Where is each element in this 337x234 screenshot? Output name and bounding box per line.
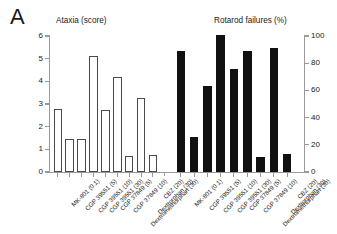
right-axis-tick: [305, 35, 309, 36]
bar-ataxia-2: [77, 139, 86, 172]
x-axis-tick: [180, 173, 181, 177]
left-axis-tick: [45, 81, 49, 82]
right-axis-tick: [305, 63, 309, 64]
bar-rotarod-8: [283, 154, 292, 172]
left-axis-tick: [45, 126, 49, 127]
x-axis-tick: [233, 173, 234, 177]
figure-panel-a: A Ataxia (score) Rotarod failures (%) 01…: [0, 0, 337, 234]
bar-ataxia-6: [125, 156, 134, 172]
left-axis-tick-label: 5: [30, 55, 43, 63]
x-axis-tick: [287, 173, 288, 177]
x-axis-tick: [220, 173, 221, 177]
x-axis-tick: [129, 173, 130, 177]
right-axis-tick-label: 40: [311, 114, 320, 122]
x-axis-tick: [164, 173, 165, 176]
x-axis-tick: [93, 173, 94, 177]
x-axis-tick: [81, 173, 82, 177]
left-axis-tick: [45, 35, 49, 36]
x-axis-tick: [152, 173, 153, 177]
bar-ataxia-0: [54, 109, 63, 172]
left-axis-tick: [45, 171, 49, 172]
right-axis-tick: [305, 144, 309, 145]
panel-letter: A: [10, 6, 25, 28]
bar-ataxia-3: [89, 56, 98, 172]
right-plot-title: Rotarod failures (%): [214, 16, 287, 25]
bar-ataxia-8: [149, 155, 158, 172]
bar-rotarod-0: [177, 51, 186, 172]
left-axis-tick: [45, 103, 49, 104]
left-plot-title: Ataxia (score): [56, 16, 107, 25]
x-axis-tick: [105, 173, 106, 177]
right-axis-tick-label: 0: [311, 168, 315, 176]
right-axis-tick-label: 60: [311, 86, 320, 94]
x-axis-tick: [260, 173, 261, 177]
bar-rotarod-1: [190, 137, 199, 172]
x-axis-tick: [273, 173, 274, 177]
x-axis-tick: [141, 173, 142, 177]
left-axis-tick-label: 6: [30, 32, 43, 40]
left-y-axis: [49, 35, 50, 173]
left-axis-tick: [45, 149, 49, 150]
left-axis-tick-label: 1: [30, 145, 43, 153]
x-axis-tick: [117, 173, 118, 177]
bar-ataxia-5: [113, 77, 122, 172]
bar-rotarod-7: [270, 48, 279, 172]
bar-ataxia-1: [65, 139, 74, 172]
x-axis-tick: [69, 173, 70, 177]
right-axis-tick-label: 100: [311, 32, 324, 40]
right-y-axis: [304, 35, 305, 173]
bar-ataxia-4: [101, 110, 110, 172]
bar-rotarod-3: [216, 35, 225, 172]
bar-rotarod-2: [203, 86, 212, 172]
bar-rotarod-6: [256, 157, 265, 172]
x-axis-tick: [207, 173, 208, 177]
left-axis-tick-label: 2: [30, 123, 43, 131]
right-axis-tick: [305, 117, 309, 118]
bar-rotarod-5: [243, 51, 252, 172]
right-axis-tick-label: 80: [311, 59, 320, 67]
x-axis-tick: [194, 173, 195, 177]
left-axis-tick: [45, 58, 49, 59]
left-axis-tick-label: 4: [30, 77, 43, 85]
x-axis-tick: [57, 173, 58, 177]
right-axis-tick: [305, 171, 309, 172]
left-axis-tick-label: 0: [30, 168, 43, 176]
bar-ataxia-7: [137, 98, 146, 172]
right-axis-tick-label: 20: [311, 141, 320, 149]
bar-rotarod-4: [230, 69, 239, 172]
right-axis-tick: [305, 90, 309, 91]
x-axis-tick: [247, 173, 248, 177]
left-axis-tick-label: 3: [30, 100, 43, 108]
